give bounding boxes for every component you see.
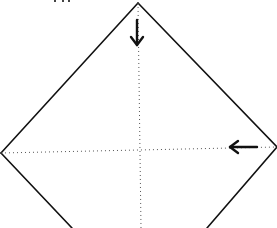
origami-diagram	[0, 0, 277, 228]
background	[0, 0, 277, 228]
